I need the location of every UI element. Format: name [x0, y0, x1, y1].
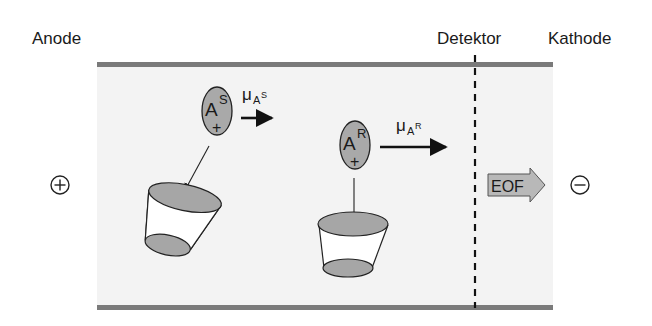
mobility-label-a-s-sup: S [261, 90, 267, 100]
mobility-label-a-s-sub: A [253, 94, 261, 106]
ion-a-r-symbol: A [343, 133, 356, 154]
mobility-label-a-r-sub: A [407, 125, 415, 137]
capillary-electrophoresis-diagram: Anode Detektor Kathode A S + μ A S A R + [0, 0, 652, 326]
mobility-label-a-r-sup: R [415, 121, 422, 131]
ion-a-r-charge: + [350, 153, 359, 170]
ion-a-s-superscript: S [219, 92, 228, 107]
mobility-label-a-r-mu: μ [396, 116, 406, 135]
minus-electrode-icon [571, 176, 589, 194]
ion-a-s-symbol: A [205, 99, 218, 120]
plus-electrode-icon [51, 176, 69, 194]
anode-label: Anode [32, 29, 81, 48]
ion-a-s-charge: + [212, 119, 221, 136]
cathode-label: Kathode [548, 29, 611, 48]
eof-label: EOF [491, 178, 524, 195]
capillary-wall-bottom [97, 305, 553, 310]
ion-a-r-superscript: R [357, 126, 366, 141]
detector-label: Detektor [437, 29, 502, 48]
mobility-label-a-s-mu: μ [242, 85, 252, 104]
capillary-wall-top [97, 62, 553, 67]
